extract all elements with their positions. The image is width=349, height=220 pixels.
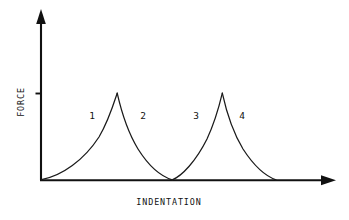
curve-label-3: 3: [193, 110, 199, 121]
curve-segment-1-loading: [42, 93, 118, 179]
curve-segment-2-unloading: [117, 93, 172, 180]
indentation-force-figure: 1 2 3 4 INDENTATION FORCE: [0, 0, 349, 220]
plot-canvas: 1 2 3 4 INDENTATION FORCE: [0, 0, 349, 220]
y-axis-label: FORCE: [16, 87, 26, 117]
arrow-right-icon: [321, 175, 336, 185]
curve-label-2: 2: [140, 110, 146, 121]
arrow-up-icon: [36, 9, 46, 24]
curve-segment-3-loading: [172, 93, 222, 180]
x-axis-label: INDENTATION: [136, 197, 201, 207]
curve-label-1: 1: [89, 110, 95, 121]
curve-segment-4-unloading: [222, 93, 276, 180]
curve-label-4: 4: [239, 110, 245, 121]
